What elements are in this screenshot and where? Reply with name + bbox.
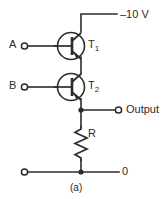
resistor-label: R (88, 128, 96, 139)
ground-junction-dot (78, 169, 83, 174)
circuit-diagram-figure: –10 V A B T1 T2 Output R 0 (a) (0, 0, 166, 199)
transistor-t1-label-subscript: 1 (95, 44, 99, 53)
figure-caption: (a) (70, 182, 82, 193)
transistor-t2-label-text: T (88, 79, 95, 91)
input-a-terminal[interactable] (21, 43, 27, 49)
transistor-t1-label: T1 (88, 39, 99, 53)
transistor-t1 (54, 33, 85, 60)
output-label: Output (126, 104, 159, 115)
output-node-wire (81, 99, 115, 127)
transistor-t2-emitter-arrow (73, 93, 80, 99)
input-b-label: B (9, 80, 16, 91)
transistor-t2-label: T2 (88, 80, 99, 94)
output-terminal[interactable] (115, 107, 121, 113)
ground-label: 0 (122, 166, 128, 177)
transistor-t2 (54, 74, 85, 101)
circuit-schematic-svg (0, 0, 166, 199)
resistor-r-zigzag (75, 126, 87, 161)
resistor-r (75, 126, 87, 161)
ground-left-terminal[interactable] (21, 169, 27, 175)
transistor-t1-label-text: T (88, 38, 95, 50)
output-junction-dot (78, 107, 83, 112)
input-a-label: A (9, 39, 16, 50)
transistor-t2-label-subscript: 2 (95, 85, 99, 94)
supply-voltage-label: –10 V (120, 9, 149, 20)
supply-rail-wire (81, 14, 117, 32)
input-b-terminal[interactable] (21, 84, 27, 90)
transistor-t1-emitter-arrow (73, 52, 80, 58)
